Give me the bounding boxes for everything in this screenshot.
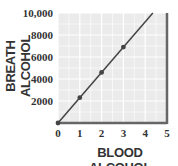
y-axis-label: BREATH ALCOHOL (3, 11, 19, 121)
data-point (77, 95, 82, 100)
x-tick-label: 5 (164, 127, 170, 139)
y-tick-label: 10,000 (23, 7, 54, 19)
data-point (121, 45, 126, 50)
data-point (56, 121, 61, 126)
y-tick-label: 2000 (31, 95, 54, 107)
y-tick-label: 8000 (31, 29, 54, 41)
x-axis-label: BLOOD ALCOHOL (66, 145, 174, 166)
x-tick-label: 2 (99, 127, 105, 139)
x-tick-label: 3 (121, 127, 127, 139)
y-tick-label: 6000 (31, 51, 54, 63)
x-tick-label: 1 (77, 127, 83, 139)
data-point (99, 70, 104, 75)
x-tick-label: 4 (142, 127, 148, 139)
y-tick-label: 4000 (31, 73, 54, 85)
x-tick-label: 0 (55, 127, 61, 139)
chart: 200040006000800010,000012345 BREATH ALCO… (0, 0, 178, 166)
